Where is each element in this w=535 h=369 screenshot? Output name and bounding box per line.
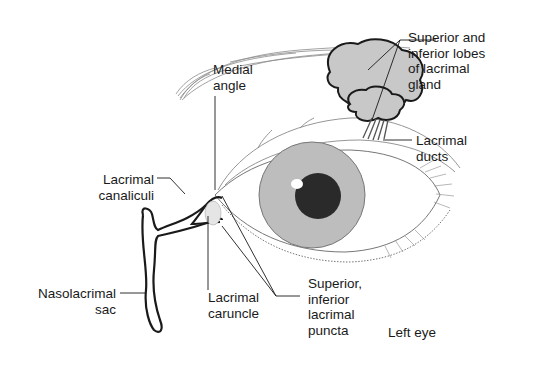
lacrimal-caruncle-icon (205, 201, 221, 225)
label-lacrimal-ducts: Lacrimal ducts (416, 133, 467, 164)
label-lacrimal-canaliculi: Lacrimal canaliculi (68, 172, 154, 203)
figure-caption: Left eye (388, 325, 436, 341)
label-lacrimal-puncta: Superior, inferior lacrimal puncta (308, 276, 362, 338)
label-lacrimal-gland: Superior and inferior lobes of lacrimal … (408, 30, 485, 92)
lacrimal-apparatus-diagram: Superior and inferior lobes of lacrimal … (0, 0, 535, 369)
iris-highlight-icon (291, 179, 303, 189)
eyelash-icon (385, 160, 454, 258)
pupil-icon (295, 173, 341, 219)
label-nasolacrimal-sac: Nasolacrimal sac (20, 286, 116, 317)
label-lacrimal-caruncle: Lacrimal caruncle (208, 290, 259, 321)
label-medial-angle: Medial angle (213, 62, 253, 93)
